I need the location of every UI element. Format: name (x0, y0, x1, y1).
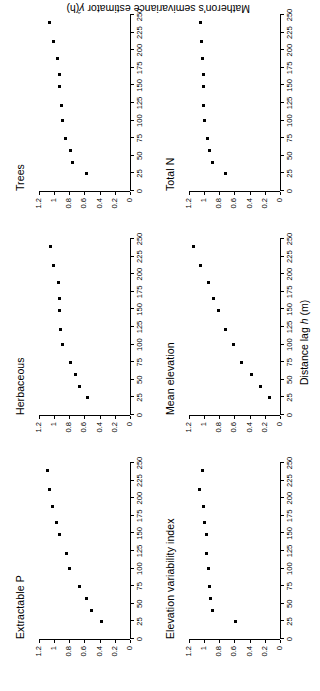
data-point (201, 57, 204, 60)
x-tick-extractable-p-1 (130, 620, 134, 621)
data-point (90, 609, 93, 612)
y-tick-elevation-variability-index-4 (219, 640, 220, 644)
panel-extractable-p: Extractable P025507510012515017520022525… (6, 449, 156, 673)
x-axis-title-variable: h (298, 318, 310, 324)
y-tick-label-trees-3: 0.6 (79, 198, 88, 216)
x-tick-extractable-p-0 (130, 638, 134, 639)
x-tick-mean-elevation-0 (280, 414, 284, 415)
y-tick-label-extractable-p-0: 0 (125, 646, 134, 664)
x-axis-line-trees (130, 15, 131, 191)
y-tick-label-herbaceous-3: 0.6 (79, 422, 88, 440)
plot-area-trees: 025507510012515017520022525000.20.40.60.… (34, 15, 130, 191)
y-tick-label-trees-2: 0.4 (95, 198, 104, 216)
data-point (211, 609, 214, 612)
y-tick-label-mean-elevation-1: 0.2 (260, 422, 269, 440)
y-tick-trees-3 (84, 192, 85, 196)
x-tick-herbaceous-9 (130, 256, 134, 257)
y-tick-extractable-p-2 (100, 640, 101, 644)
x-tick-mean-elevation-3 (280, 361, 284, 362)
y-tick-herbaceous-3 (84, 416, 85, 420)
figure-rotation-wrapper: Extractable P025507510012515017520022525… (0, 0, 320, 691)
x-tick-total-n-3 (280, 137, 284, 138)
x-tick-trees-0 (130, 190, 134, 191)
x-tick-label-extractable-p-10: 250 (135, 451, 144, 475)
y-tick-elevation-variability-index-2 (250, 640, 251, 644)
y-tick-total-n-4 (219, 192, 220, 196)
y-tick-label-trees-6: 1.2 (34, 198, 43, 216)
x-tick-trees-2 (130, 155, 134, 156)
y-tick-label-elevation-variability-index-5: 1 (199, 646, 208, 664)
data-point (58, 85, 61, 88)
panel-mean-elevation: Mean elevation02550751001251501752002252… (156, 225, 306, 449)
y-tick-elevation-variability-index-1 (265, 640, 266, 644)
y-tick-label-extractable-p-3: 0.6 (79, 646, 88, 664)
data-point (207, 567, 210, 570)
x-tick-herbaceous-0 (130, 414, 134, 415)
x-tick-total-n-6 (280, 84, 284, 85)
y-tick-label-herbaceous-5: 1 (49, 422, 58, 440)
data-point (51, 505, 54, 508)
x-tick-trees-5 (130, 102, 134, 103)
x-tick-elevation-variability-index-6 (280, 532, 284, 533)
panel-title-trees: Trees (14, 164, 26, 191)
y-tick-mean-elevation-0 (280, 416, 281, 420)
y-tick-mean-elevation-3 (234, 416, 235, 420)
y-axis-title-text: Matheron's semivariance estimator (85, 3, 250, 15)
x-tick-trees-7 (130, 67, 134, 68)
y-tick-label-elevation-variability-index-4: 0.8 (214, 646, 223, 664)
x-tick-herbaceous-1 (130, 396, 134, 397)
y-tick-label-total-n-6: 1.2 (184, 198, 193, 216)
y-tick-extractable-p-1 (115, 640, 116, 644)
x-tick-extractable-p-3 (130, 585, 134, 586)
y-tick-total-n-2 (250, 192, 251, 196)
data-point (217, 309, 220, 312)
y-tick-herbaceous-5 (54, 416, 55, 420)
x-axis-line-elevation-variability-index (280, 463, 281, 639)
x-tick-elevation-variability-index-4 (280, 568, 284, 569)
y-tick-label-herbaceous-4: 0.8 (64, 422, 73, 440)
y-tick-extractable-p-0 (130, 640, 131, 644)
x-tick-trees-1 (130, 172, 134, 173)
data-point (78, 385, 81, 388)
data-point (61, 343, 64, 346)
data-point (65, 552, 68, 555)
y-tick-total-n-6 (189, 192, 190, 196)
data-point (208, 585, 211, 588)
y-tick-herbaceous-2 (100, 416, 101, 420)
x-tick-herbaceous-7 (130, 291, 134, 292)
data-point (199, 264, 202, 267)
data-point (212, 297, 215, 300)
data-point (48, 21, 51, 24)
x-tick-total-n-7 (280, 67, 284, 68)
y-tick-extractable-p-5 (54, 640, 55, 644)
y-tick-label-mean-elevation-2: 0.4 (245, 422, 254, 440)
data-point (240, 361, 243, 364)
y-tick-mean-elevation-6 (189, 416, 190, 420)
data-point (202, 73, 205, 76)
panel-trees: Trees025507510012515017520022525000.20.4… (6, 1, 156, 225)
data-point (71, 161, 74, 164)
data-point (78, 585, 81, 588)
x-tick-extractable-p-5 (130, 550, 134, 551)
y-tick-label-extractable-p-2: 0.4 (95, 646, 104, 664)
x-tick-elevation-variability-index-5 (280, 550, 284, 551)
x-tick-trees-8 (130, 49, 134, 50)
data-point (68, 567, 71, 570)
data-point (259, 385, 262, 388)
panel-title-herbaceous: Herbaceous (14, 357, 26, 415)
y-tick-extractable-p-4 (69, 640, 70, 644)
data-point (201, 469, 204, 472)
x-tick-total-n-1 (280, 172, 284, 173)
y-tick-label-extractable-p-6: 1.2 (34, 646, 43, 664)
y-tick-herbaceous-0 (130, 416, 131, 420)
y-tick-label-herbaceous-1: 0.2 (110, 422, 119, 440)
x-axis-line-herbaceous (130, 239, 131, 415)
panel-title-mean-elevation: Mean elevation (164, 342, 176, 415)
data-point (202, 104, 205, 107)
x-tick-mean-elevation-4 (280, 344, 284, 345)
x-tick-herbaceous-2 (130, 379, 134, 380)
x-axis-title: Distance lag h (m) (298, 300, 310, 385)
data-point (60, 104, 63, 107)
y-tick-label-trees-0: 0 (125, 198, 134, 216)
x-tick-mean-elevation-9 (280, 256, 284, 257)
